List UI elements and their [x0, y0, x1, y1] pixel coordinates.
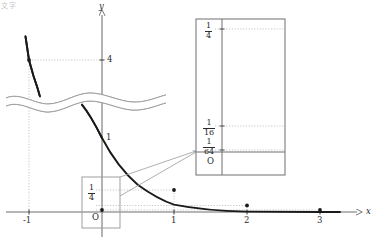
y-axis-label: y [99, 2, 104, 11]
fraction-numerator: 1 [203, 119, 215, 127]
point-x1 [172, 188, 176, 192]
point-origin-y [100, 208, 104, 212]
inset-fraction-sixteenth: 1 16 [203, 119, 215, 137]
x-tick-label-1: 1 [171, 216, 176, 225]
fraction-numerator: 1 [88, 184, 95, 192]
point-x3 [318, 208, 322, 212]
point-minus1 [27, 58, 31, 62]
inset-fraction-sixtyfourth: 1 64 [203, 138, 215, 156]
x-tick-label-3: 3 [317, 216, 322, 225]
x-axis-label: x [366, 207, 371, 216]
plot-canvas [0, 0, 376, 243]
y-intercept-label-1: 1 [106, 133, 111, 142]
fraction-denominator: 4 [88, 194, 95, 202]
x-tick-label-minus1: -1 [23, 216, 31, 225]
x-tick-label-2: 2 [244, 216, 249, 225]
point-x2 [245, 204, 249, 208]
exponential-decay-figure: 文字 [0, 0, 376, 243]
origin-label: O [92, 213, 99, 222]
curve-break-ends [26, 37, 103, 139]
magnifier-connectors [120, 151, 196, 196]
curve-data-points [27, 58, 322, 212]
fraction-numerator: 1 [205, 22, 212, 30]
fraction-numerator: 1 [203, 138, 215, 146]
axis-lines [6, 15, 357, 237]
y-tick-label-4: 4 [107, 55, 112, 64]
inset-guide-lines [215, 29, 285, 150]
inset-origin-label: O [207, 157, 214, 166]
fraction-denominator: 4 [205, 32, 212, 40]
curve-exponential [26, 37, 341, 213]
magnifier-source-fraction: 1 4 [88, 184, 95, 202]
inset-fraction-quarter: 1 4 [205, 22, 212, 40]
